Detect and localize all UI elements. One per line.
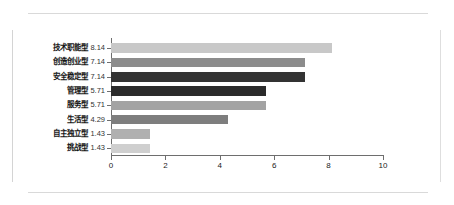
x-tick-label: 2 (155, 161, 175, 170)
bar (111, 129, 150, 139)
y-tick-mark (107, 134, 111, 135)
y-tick-mark (107, 120, 111, 121)
x-tick-mark (111, 156, 112, 160)
value-label: 4.29 (88, 115, 105, 124)
category-label: 自主独立型 (53, 129, 88, 138)
value-label: 8.14 (88, 43, 105, 52)
category-label: 管理型 (67, 86, 88, 95)
x-tick-label: 6 (264, 161, 284, 170)
x-tick-mark (274, 156, 275, 160)
category-label: 挑战型 (67, 143, 88, 152)
category-label: 创造创业型 (53, 57, 88, 66)
y-tick-mark (107, 77, 111, 78)
x-axis-line (111, 155, 384, 156)
y-tick-label: 创造创业型 7.14 (0, 57, 105, 66)
y-tick-mark (107, 105, 111, 106)
x-tick-label: 0 (101, 161, 121, 170)
category-label: 技术职能型 (53, 43, 88, 52)
bar (111, 86, 266, 96)
horizontal-bar-chart: 技术职能型 8.14创造创业型 7.14安全稳定型 7.14管理型 5.71服务… (0, 0, 454, 205)
y-tick-label: 技术职能型 8.14 (0, 43, 105, 52)
y-tick-label: 生活型 4.29 (0, 115, 105, 124)
x-tick-label: 10 (373, 161, 393, 170)
value-label: 5.71 (88, 86, 105, 95)
category-label: 生活型 (67, 115, 88, 124)
y-tick-mark (107, 91, 111, 92)
bar (111, 58, 305, 68)
y-tick-label: 自主独立型 1.43 (0, 129, 105, 138)
bar (111, 115, 228, 125)
value-label: 1.43 (88, 129, 105, 138)
y-tick-mark (107, 148, 111, 149)
y-tick-mark (107, 62, 111, 63)
x-tick-mark (383, 156, 384, 160)
x-tick-label: 8 (319, 161, 339, 170)
x-tick-mark (165, 156, 166, 160)
y-tick-mark (107, 48, 111, 49)
y-tick-label: 挑战型 1.43 (0, 143, 105, 152)
x-tick-mark (220, 156, 221, 160)
category-label: 安全稳定型 (53, 72, 88, 81)
value-label: 7.14 (88, 72, 105, 81)
bar (111, 101, 266, 111)
value-label: 7.14 (88, 57, 105, 66)
category-label: 服务型 (67, 100, 88, 109)
x-tick-mark (329, 156, 330, 160)
value-label: 5.71 (88, 100, 105, 109)
chart-page: 技术职能型 8.14创造创业型 7.14安全稳定型 7.14管理型 5.71服务… (0, 0, 454, 205)
value-label: 1.43 (88, 143, 105, 152)
x-tick-label: 4 (210, 161, 230, 170)
y-tick-label: 服务型 5.71 (0, 100, 105, 109)
bar (111, 144, 150, 154)
y-tick-label: 安全稳定型 7.14 (0, 72, 105, 81)
bar (111, 43, 332, 53)
bar (111, 72, 305, 82)
y-tick-label: 管理型 5.71 (0, 86, 105, 95)
